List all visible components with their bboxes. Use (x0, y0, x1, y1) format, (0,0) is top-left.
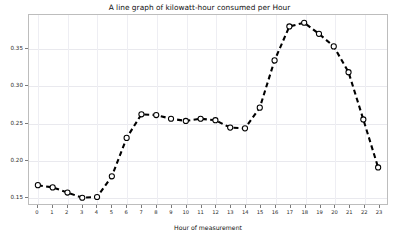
x-tick-mark (67, 205, 68, 208)
x-tick-mark (37, 205, 38, 208)
series-markers (35, 20, 380, 200)
x-tick-mark (96, 205, 97, 208)
data-point (109, 174, 114, 179)
x-tick-label: 23 (376, 209, 383, 215)
x-tick-label: 15 (257, 209, 264, 215)
x-tick-label: 0 (35, 209, 38, 215)
x-tick-label: 19 (316, 209, 323, 215)
data-point (257, 105, 262, 110)
y-tick-label: 0.25 (11, 120, 23, 126)
x-tick-label: 8 (154, 209, 157, 215)
x-tick-label: 1 (50, 209, 53, 215)
x-tick-mark (334, 205, 335, 208)
data-point (331, 44, 336, 49)
x-tick-mark (52, 205, 53, 208)
line-series (29, 15, 387, 204)
x-tick-label: 3 (80, 209, 83, 215)
x-tick-mark (245, 205, 246, 208)
data-point (183, 118, 188, 123)
data-point (80, 195, 85, 200)
data-point (35, 183, 40, 188)
x-tick-label: 18 (301, 209, 308, 215)
x-tick-label: 11 (197, 209, 204, 215)
data-point (213, 118, 218, 123)
x-tick-mark (230, 205, 231, 208)
data-point (124, 135, 129, 140)
x-tick-mark (201, 205, 202, 208)
x-tick-label: 10 (182, 209, 189, 215)
y-tick-label: 0.35 (11, 45, 23, 51)
y-tick-label: 0.15 (11, 194, 23, 200)
data-point (198, 116, 203, 121)
x-tick-label: 13 (227, 209, 234, 215)
x-tick-mark (260, 205, 261, 208)
data-point (302, 20, 307, 25)
x-tick-mark (186, 205, 187, 208)
data-point (168, 116, 173, 121)
chart-figure: A line graph of kilowatt-hour consumed p… (0, 0, 399, 240)
x-tick-mark (111, 205, 112, 208)
data-point (242, 126, 247, 131)
x-tick-label: 6 (125, 209, 128, 215)
x-tick-mark (275, 205, 276, 208)
x-tick-label: 16 (272, 209, 279, 215)
x-tick-label: 20 (331, 209, 338, 215)
x-tick-mark (349, 205, 350, 208)
data-point (376, 165, 381, 170)
plot-area (28, 14, 388, 205)
data-point (287, 24, 292, 29)
x-tick-mark (320, 205, 321, 208)
x-tick-mark (364, 205, 365, 208)
x-tick-mark (215, 205, 216, 208)
data-point (154, 112, 159, 117)
x-tick-mark (290, 205, 291, 208)
data-point (228, 125, 233, 130)
data-point (139, 112, 144, 117)
y-tick-label: 0.30 (11, 82, 23, 88)
x-tick-label: 2 (65, 209, 68, 215)
data-point (346, 70, 351, 75)
data-point (316, 31, 321, 36)
x-tick-label: 22 (361, 209, 368, 215)
x-tick-mark (82, 205, 83, 208)
x-tick-mark (156, 205, 157, 208)
x-tick-label: 7 (139, 209, 142, 215)
data-point (361, 117, 366, 122)
series-line (38, 23, 378, 198)
data-point (65, 190, 70, 195)
x-tick-label: 17 (287, 209, 294, 215)
x-tick-label: 9 (169, 209, 172, 215)
data-point (50, 185, 55, 190)
y-tick-label: 0.20 (11, 157, 23, 163)
x-tick-mark (379, 205, 380, 208)
x-tick-label: 12 (212, 209, 219, 215)
x-tick-label: 14 (242, 209, 249, 215)
x-tick-mark (126, 205, 127, 208)
chart-title: A line graph of kilowatt-hour consumed p… (0, 3, 399, 12)
x-axis-label: Hour of measurement (28, 224, 388, 231)
x-tick-label: 21 (346, 209, 353, 215)
x-tick-mark (141, 205, 142, 208)
x-tick-mark (305, 205, 306, 208)
data-point (272, 58, 277, 63)
x-tick-label: 4 (95, 209, 98, 215)
x-tick-label: 5 (110, 209, 113, 215)
x-tick-mark (171, 205, 172, 208)
data-point (94, 194, 99, 199)
